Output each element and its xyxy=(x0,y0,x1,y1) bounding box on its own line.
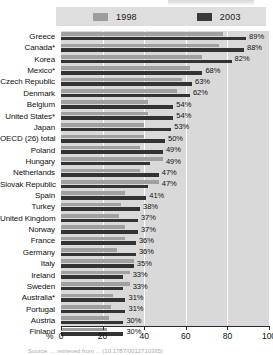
table-row: 41% xyxy=(61,190,269,201)
bar-1998 xyxy=(61,259,134,263)
bar-2003 xyxy=(61,196,146,200)
legend-item-1998: 1998 xyxy=(93,12,137,22)
bar-value-label: 33% xyxy=(133,282,148,292)
x-tick-label: 100 xyxy=(262,331,273,341)
category-label: Australia* xyxy=(0,292,58,303)
bar-2003 xyxy=(61,105,173,109)
category-label: Turkey xyxy=(0,201,58,212)
legend-swatch-2003-icon xyxy=(197,13,212,21)
bar-value-label: 41% xyxy=(149,191,164,201)
category-label: Netherlands xyxy=(0,167,58,178)
x-tick xyxy=(144,326,145,330)
bar-2003 xyxy=(61,230,138,234)
table-row: 49% xyxy=(61,156,269,167)
table-row: 63% xyxy=(61,76,269,87)
bar-1998 xyxy=(61,32,223,36)
bar-1998 xyxy=(61,225,125,229)
x-tick-label: 0 xyxy=(59,331,64,341)
table-row: 68% xyxy=(61,65,269,76)
table-row: 47% xyxy=(61,167,269,178)
table-row: 50% xyxy=(61,133,269,144)
x-tick xyxy=(227,326,228,330)
table-row: 49% xyxy=(61,145,269,156)
table-row: 82% xyxy=(61,54,269,65)
bar-2003 xyxy=(61,173,159,177)
bar-2003 xyxy=(61,128,171,132)
bar-1998 xyxy=(61,100,148,104)
category-label: Norway xyxy=(0,224,58,235)
bar-1998 xyxy=(61,214,119,218)
category-label: France xyxy=(0,235,58,246)
bar-1998 xyxy=(61,89,177,93)
table-row: 33% xyxy=(61,281,269,292)
table-row: 88% xyxy=(61,42,269,53)
table-row: 54% xyxy=(61,99,269,110)
bar-value-label: 49% xyxy=(166,145,181,155)
bar-2003 xyxy=(61,185,148,189)
table-row: 53% xyxy=(61,122,269,133)
bar-value-label: 54% xyxy=(176,100,191,110)
category-label: Canada* xyxy=(0,42,58,53)
table-row: 30% xyxy=(61,326,269,337)
bar-1998 xyxy=(61,316,109,320)
bar-rows: 89%88%82%68%63%62%54%54%53%50%49%49%47%4… xyxy=(61,31,269,326)
bar-2003 xyxy=(61,82,192,86)
bar-value-label: 68% xyxy=(205,66,220,76)
bar-value-label: 35% xyxy=(137,259,152,269)
table-row: 30% xyxy=(61,315,269,326)
table-row: 36% xyxy=(61,247,269,258)
table-row: 36% xyxy=(61,235,269,246)
bar-value-label: 49% xyxy=(166,157,181,167)
category-label: Czech Republic xyxy=(0,76,58,87)
table-row: 37% xyxy=(61,213,269,224)
bar-1998 xyxy=(61,157,163,161)
x-axis-line xyxy=(61,326,269,327)
chart-container: 1998 2003 GreeceCanada*KoreaMexico*Czech… xyxy=(0,0,273,355)
bar-1998 xyxy=(61,294,113,298)
bar-1998 xyxy=(61,282,130,286)
category-label: Portugal xyxy=(0,304,58,315)
bar-value-label: 37% xyxy=(141,225,156,235)
x-tick xyxy=(186,326,187,330)
bar-value-label: 33% xyxy=(133,270,148,280)
bar-2003 xyxy=(61,37,246,41)
category-label: Ireland xyxy=(0,270,58,281)
category-label: Greece xyxy=(0,31,58,42)
table-row: 35% xyxy=(61,258,269,269)
category-label: Slovak Republic xyxy=(0,179,58,190)
category-label: Italy xyxy=(0,258,58,269)
table-row: 37% xyxy=(61,224,269,235)
x-tick-label: 40 xyxy=(139,331,148,341)
category-label: Korea xyxy=(0,54,58,65)
bar-1998 xyxy=(61,237,125,241)
bar-1998 xyxy=(61,191,125,195)
bar-value-label: 62% xyxy=(193,88,208,98)
footnote-clipped: Source: ... retrieved from ... (10.1787/… xyxy=(28,348,256,354)
bar-2003 xyxy=(61,162,150,166)
bar-1998 xyxy=(61,146,140,150)
bar-2003 xyxy=(61,310,125,314)
category-label: Spain xyxy=(0,190,58,201)
table-row: 33% xyxy=(61,270,269,281)
bar-value-label: 47% xyxy=(162,179,177,189)
bar-1998 xyxy=(61,135,144,139)
bar-value-label: 38% xyxy=(143,202,158,212)
bar-2003 xyxy=(61,116,173,120)
bar-2003 xyxy=(61,275,123,279)
legend-swatch-1998-icon xyxy=(93,13,108,21)
bar-1998 xyxy=(61,248,117,252)
category-label: Mexico* xyxy=(0,65,58,76)
category-label: Sweden xyxy=(0,281,58,292)
category-label: Belgium xyxy=(0,99,58,110)
bar-2003 xyxy=(61,60,232,64)
bar-2003 xyxy=(61,264,134,268)
legend-label-1998: 1998 xyxy=(116,12,137,22)
bar-2003 xyxy=(61,321,123,325)
bar-2003 xyxy=(61,150,163,154)
bar-1998 xyxy=(61,55,202,59)
x-tick-label: 60 xyxy=(181,331,190,341)
bar-value-label: 31% xyxy=(128,293,143,303)
bar-1998 xyxy=(61,305,111,309)
bar-2003 xyxy=(61,48,244,52)
bar-value-label: 36% xyxy=(139,236,154,246)
